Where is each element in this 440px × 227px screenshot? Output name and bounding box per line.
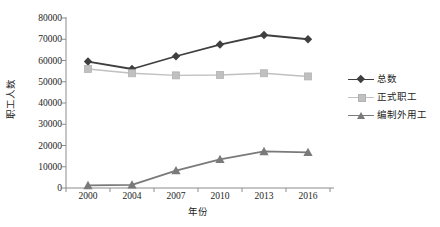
x-tick-label: 2004	[123, 190, 142, 202]
data-point-diamond	[216, 40, 224, 48]
data-point-diamond	[304, 35, 312, 43]
triangle-marker-glyph	[357, 112, 365, 119]
legend-label: 正式职工	[377, 91, 417, 103]
line-chart: 职工人数 80000700006000050000400003000020000…	[0, 0, 440, 227]
data-point-diamond	[84, 57, 92, 65]
data-point-square	[217, 71, 224, 78]
diamond-marker	[348, 73, 374, 85]
series-line-triangle	[88, 151, 308, 185]
diamond-marker-glyph	[357, 75, 365, 83]
data-point-square	[85, 66, 92, 73]
data-point-square	[261, 70, 268, 77]
x-tick-label: 2000	[79, 190, 98, 202]
square-marker-glyph	[358, 94, 366, 102]
data-point-square	[305, 73, 312, 80]
legend-item[interactable]: 正式职工	[348, 88, 440, 106]
x-tick-label: 2016	[299, 190, 318, 202]
data-point-diamond	[260, 31, 268, 39]
series-line-diamond	[88, 35, 308, 69]
data-point-diamond	[172, 52, 180, 60]
data-point-square	[129, 70, 136, 77]
x-tick-label: 2013	[255, 190, 274, 202]
x-tick-label: 2007	[167, 190, 186, 202]
legend-item[interactable]: 总数	[348, 70, 440, 88]
data-point-square	[173, 72, 180, 79]
x-axis-title: 年份	[66, 204, 330, 218]
square-marker	[348, 91, 374, 103]
legend-label: 总数	[377, 73, 397, 85]
chart-legend: 总数正式职工编制外用工	[348, 70, 440, 124]
legend-item[interactable]: 编制外用工	[348, 106, 440, 124]
x-tick-label: 2010	[211, 190, 230, 202]
series-line-square	[88, 69, 308, 76]
legend-label: 编制外用工	[377, 109, 427, 121]
triangle-marker	[348, 109, 374, 121]
